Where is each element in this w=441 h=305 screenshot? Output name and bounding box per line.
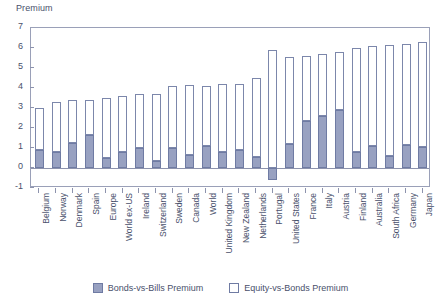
bar-segment-bonds-vs-bills bbox=[135, 148, 144, 168]
x-axis-tick-label: United States bbox=[292, 193, 301, 244]
bar-segment-equity-vs-bonds bbox=[85, 100, 94, 135]
x-axis-tick-label: South Africa bbox=[392, 193, 401, 239]
x-axis-tick-label: Spain bbox=[92, 193, 101, 215]
x-tick-mark bbox=[355, 188, 356, 193]
bar-segment-equity-vs-bonds bbox=[168, 86, 177, 148]
x-axis-tick-label: Netherlands bbox=[259, 193, 268, 239]
bar-group bbox=[218, 28, 227, 186]
y-tick-mark bbox=[30, 87, 34, 88]
bar-segment-equity-vs-bonds bbox=[385, 45, 394, 156]
bar-segment-bonds-vs-bills bbox=[402, 145, 411, 168]
x-axis-tick-label: Italy bbox=[325, 193, 334, 209]
legend-item-bonds-vs-bills: Bonds-vs-Bills Premium bbox=[93, 283, 204, 293]
bar-group bbox=[385, 28, 394, 186]
x-tick-mark bbox=[138, 188, 139, 193]
bar-segment-bonds-vs-bills bbox=[152, 161, 161, 168]
bar-group bbox=[402, 28, 411, 186]
bar-group bbox=[335, 28, 344, 186]
x-tick-mark bbox=[205, 188, 206, 193]
x-tick-mark bbox=[305, 188, 306, 193]
bar-segment-bonds-vs-bills bbox=[102, 158, 111, 168]
x-axis-tick-label: New Zealand bbox=[242, 193, 251, 243]
bar-group bbox=[168, 28, 177, 186]
y-tick-label: 5 bbox=[18, 62, 23, 71]
bar-segment-equity-vs-bonds bbox=[335, 52, 344, 110]
chart-legend: Bonds-vs-Bills Premium Equity-vs-Bonds P… bbox=[0, 283, 441, 293]
bar-segment-bonds-vs-bills bbox=[252, 157, 261, 168]
y-tick-label: 7 bbox=[18, 22, 23, 31]
y-tick-mark bbox=[30, 47, 34, 48]
bar-segment-equity-vs-bonds bbox=[68, 100, 77, 143]
bar-group bbox=[85, 28, 94, 186]
bar-group bbox=[318, 28, 327, 186]
bar-segment-equity-vs-bonds bbox=[302, 56, 311, 121]
bar-segment-equity-vs-bonds bbox=[102, 98, 111, 158]
bar-segment-equity-vs-bonds bbox=[185, 85, 194, 155]
chart-figure: Premium -101234567 BelgiumNorwayDenmarkS… bbox=[0, 0, 441, 305]
bar-segment-equity-vs-bonds bbox=[285, 57, 294, 144]
y-tick-mark bbox=[30, 167, 34, 168]
bar-group bbox=[52, 28, 61, 186]
y-tick-mark bbox=[30, 67, 34, 68]
bar-segment-equity-vs-bonds bbox=[268, 50, 277, 168]
x-axis-tick-label: Europe bbox=[109, 193, 118, 220]
bar-segment-bonds-vs-bills bbox=[318, 116, 327, 168]
x-axis-tick-label: Sweden bbox=[175, 193, 184, 224]
bar-segment-bonds-vs-bills bbox=[385, 156, 394, 168]
bar-group bbox=[268, 28, 277, 186]
bar-group bbox=[35, 28, 44, 186]
bar-group bbox=[368, 28, 377, 186]
x-tick-mark bbox=[172, 188, 173, 193]
x-axis-tick-label: Belgium bbox=[42, 193, 51, 224]
bar-segment-equity-vs-bonds bbox=[368, 46, 377, 146]
bar-segment-bonds-vs-bills bbox=[418, 147, 427, 168]
bar-segment-bonds-vs-bills bbox=[302, 121, 311, 168]
y-tick-mark bbox=[30, 147, 34, 148]
x-tick-mark bbox=[372, 188, 373, 193]
x-axis-tick-label: Portugal bbox=[275, 193, 284, 225]
x-axis-tick-label: World ex-US bbox=[125, 193, 134, 241]
x-tick-mark bbox=[322, 188, 323, 193]
bar-group bbox=[135, 28, 144, 186]
bar-group bbox=[152, 28, 161, 186]
x-tick-mark bbox=[155, 188, 156, 193]
x-tick-mark bbox=[222, 188, 223, 193]
legend-swatch-bonds-vs-bills bbox=[93, 283, 103, 293]
y-tick-label: 4 bbox=[18, 82, 23, 91]
bar-segment-bonds-vs-bills bbox=[352, 152, 361, 168]
x-tick-mark bbox=[105, 188, 106, 193]
bar-segment-bonds-vs-bills bbox=[52, 152, 61, 168]
bar-group bbox=[235, 28, 244, 186]
bar-segment-bonds-vs-bills bbox=[218, 152, 227, 168]
x-tick-mark bbox=[388, 188, 389, 193]
bar-segment-equity-vs-bonds bbox=[418, 42, 427, 147]
y-tick-mark bbox=[30, 107, 34, 108]
x-tick-mark bbox=[272, 188, 273, 193]
bar-segment-equity-vs-bonds bbox=[52, 102, 61, 152]
bar-segment-bonds-vs-bills bbox=[368, 146, 377, 168]
x-axis-labels: BelgiumNorwayDenmarkSpainEuropeWorld ex-… bbox=[30, 193, 430, 268]
x-axis-tick-label: Ireland bbox=[142, 193, 151, 219]
y-tick-label: 3 bbox=[18, 102, 23, 111]
x-tick-mark bbox=[288, 188, 289, 193]
bar-group bbox=[118, 28, 127, 186]
x-axis-tick-label: United Kingdom bbox=[225, 193, 234, 253]
x-tick-mark bbox=[88, 188, 89, 193]
x-tick-mark bbox=[38, 188, 39, 193]
x-axis-tick-label: Austria bbox=[342, 193, 351, 219]
x-axis-tick-label: Finland bbox=[359, 193, 368, 221]
bar-group bbox=[285, 28, 294, 186]
x-tick-mark bbox=[255, 188, 256, 193]
bar-segment-equity-vs-bonds bbox=[202, 86, 211, 146]
x-axis-tick-label: Denmark bbox=[75, 193, 84, 227]
y-tick-label: 0 bbox=[18, 162, 23, 171]
bar-segment-equity-vs-bonds bbox=[318, 54, 327, 116]
x-tick-mark bbox=[238, 188, 239, 193]
bar-segment-bonds-vs-bills bbox=[335, 110, 344, 168]
bar-segment-equity-vs-bonds bbox=[35, 108, 44, 150]
bar-segment-bonds-vs-bills bbox=[285, 144, 294, 168]
bar-segment-equity-vs-bonds bbox=[235, 84, 244, 150]
x-axis-tick-label: Germany bbox=[409, 193, 418, 228]
x-axis-tick-label: Switzerland bbox=[159, 193, 168, 237]
bar-group bbox=[102, 28, 111, 186]
